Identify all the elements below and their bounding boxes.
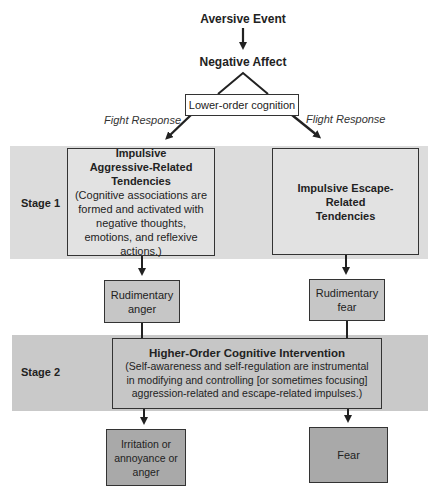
escape-tendencies-box: Impulsive Escape-Related Tendencies [272,148,419,255]
fight-response-label: Fight Response [104,114,181,126]
lower-order-cognition-label: Lower-order cognition [189,98,295,112]
fear-outcome-label: Fear [337,448,360,462]
aggressive-tendencies-description: (Cognitive associations are formed and a… [72,188,210,258]
lower-order-cognition-box: Lower-order cognition [185,94,299,116]
rudimentary-anger-label: Rudimentary anger [109,288,175,316]
aggressive-tendencies-title: Impulsive Aggressive-Related Tendencies [85,146,197,188]
rudimentary-fear-box: Rudimentary fear [309,279,385,321]
higher-order-intervention-description: (Self-awareness and self-regulation are … [121,360,373,401]
irritation-outcome-box: Irritation or annoyance or anger [106,429,186,486]
negative-affect-label: Negative Affect [183,55,303,69]
aversive-event-label: Aversive Event [183,12,303,26]
rudimentary-anger-box: Rudimentary anger [104,280,180,323]
irritation-outcome-label: Irritation or annoyance or anger [111,437,181,479]
stage2-label: Stage 2 [21,366,60,378]
aggressive-tendencies-box: Impulsive Aggressive-Related Tendencies … [67,148,215,256]
diagram-canvas: Aversive Event Negative Affect Lower-ord… [0,0,441,497]
higher-order-intervention-title: Higher-Order Cognitive Intervention [149,346,345,360]
fear-outcome-box: Fear [309,427,388,483]
rudimentary-fear-label: Rudimentary fear [314,286,380,314]
stage1-label: Stage 1 [21,197,60,209]
escape-tendencies-title: Impulsive Escape-Related Tendencies [296,181,396,223]
higher-order-intervention-box: Higher-Order Cognitive Intervention (Sel… [112,338,382,409]
flight-response-label: Flight Response [306,113,386,125]
